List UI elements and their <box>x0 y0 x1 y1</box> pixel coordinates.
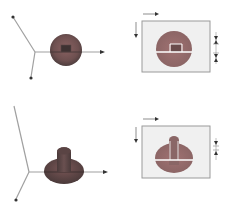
direction-arrow-right-icon <box>143 117 159 121</box>
row2-projection-view <box>134 117 219 178</box>
direction-arrow-right-icon <box>143 12 159 16</box>
direction-arrow-down-icon <box>134 127 138 143</box>
row1-3d-view <box>11 15 105 79</box>
row2-3d-view <box>14 106 108 202</box>
dimension-arrows-icon <box>213 32 219 64</box>
diagram-svg <box>0 0 228 216</box>
dimension-arrows-icon <box>213 138 219 160</box>
figure-canvas <box>0 0 228 216</box>
row1-projection-view <box>134 12 219 72</box>
center-square <box>61 45 71 52</box>
projected-center-square <box>171 44 181 52</box>
direction-arrow-down-icon <box>134 22 138 38</box>
cylinder-top <box>57 148 71 155</box>
